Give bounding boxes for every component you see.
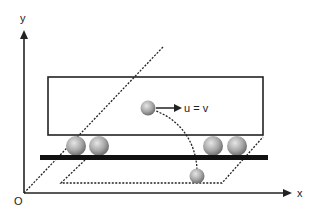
y-axis-label: y (20, 12, 26, 24)
dotted-guides (24, 47, 263, 193)
origin-label: O (14, 195, 23, 207)
velocity-arrowhead-icon (174, 104, 182, 112)
y-axis-arrowhead-icon (20, 30, 28, 39)
moving-box (48, 77, 263, 135)
track-bar (40, 155, 268, 160)
wheel-1 (66, 136, 86, 156)
frame-of-reference-diagram: y x O u = v (0, 0, 317, 212)
ball-trajectory-curve (153, 110, 197, 170)
ball-in-box (141, 101, 156, 116)
falling-ball (190, 169, 205, 184)
wheel-4 (227, 136, 247, 156)
axes (24, 38, 284, 193)
wheel-3 (203, 136, 223, 156)
wheel-2 (89, 136, 109, 156)
x-axis-arrowhead-icon (283, 189, 292, 197)
x-axis-label: x (297, 187, 303, 199)
velocity-label: u = v (184, 102, 209, 114)
wheels (66, 136, 247, 156)
diagonal-guide-line (24, 47, 163, 193)
